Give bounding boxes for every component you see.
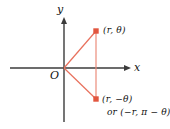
y-axis-label: y bbox=[57, 4, 63, 15]
y-axis-arrowhead bbox=[61, 17, 67, 24]
origin-label: O bbox=[50, 70, 59, 81]
lower-point-alternate-label: or (−r, π − θ) bbox=[107, 108, 170, 117]
upper-point-marker bbox=[93, 28, 98, 33]
x-axis-arrowhead bbox=[124, 65, 131, 71]
upper-point-label: (r, θ) bbox=[103, 26, 126, 35]
polar-coordinate-figure: y x O (r, θ) (r, −θ) or (−r, π − θ) bbox=[0, 0, 170, 129]
ray-to-upper-point bbox=[64, 31, 96, 68]
lower-point-marker bbox=[93, 96, 98, 101]
x-axis-label: x bbox=[134, 62, 140, 73]
ray-to-lower-point bbox=[64, 68, 96, 99]
lower-point-label: (r, −θ) bbox=[102, 95, 132, 104]
